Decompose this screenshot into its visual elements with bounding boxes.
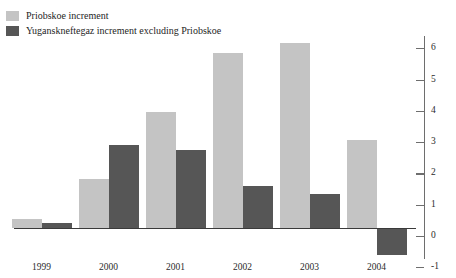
y-tick-label-3: 3: [431, 137, 436, 147]
y-tick-label-4: 4: [431, 106, 436, 116]
x-tick-label-2001: 2001: [166, 262, 185, 272]
bar-2002-series-2: [243, 186, 273, 228]
x-tick-label-2000: 2000: [99, 262, 118, 272]
bar-2001-series-2: [176, 150, 206, 228]
bar-group-2003: [280, 28, 340, 260]
y-tick-1: [416, 205, 424, 206]
y-tick--1: [416, 267, 424, 268]
x-tick-label-2004: 2004: [367, 262, 386, 272]
y-tick-label-5: 5: [431, 75, 436, 85]
bar-2001-series-1: [146, 112, 176, 228]
y-tick-label--1: -1: [431, 263, 439, 273]
y-axis-line: [424, 36, 425, 259]
y-tick-label-2: 2: [431, 169, 436, 179]
legend-item-priobskoe: Priobskoe increment: [6, 9, 306, 22]
bar-group-2004: [347, 28, 407, 260]
x-tick-label-1999: 1999: [32, 262, 51, 272]
x-tick-label-2003: 2003: [300, 262, 319, 272]
bar-group-2001: [146, 28, 206, 260]
x-axis: 199920002001200220032004: [14, 262, 416, 276]
y-tick-4: [416, 111, 424, 112]
y-tick-5: [416, 80, 424, 81]
bar-chart: Priobskoe increment Yuganskneftegaz incr…: [0, 0, 456, 278]
bar-2000-series-2: [109, 145, 139, 228]
plot-area: [14, 28, 416, 260]
bar-2004-series-2: [377, 228, 407, 255]
bar-1999-series-1: [12, 219, 42, 228]
zero-baseline: [14, 228, 416, 229]
bar-2004-series-1: [347, 140, 377, 228]
y-tick-2: [416, 173, 424, 174]
bar-2002-series-1: [213, 53, 243, 228]
bar-group-2002: [213, 28, 273, 260]
x-tick-label-2002: 2002: [233, 262, 252, 272]
legend-label-priobskoe: Priobskoe increment: [26, 10, 108, 21]
y-tick-3: [416, 142, 424, 143]
y-tick-0: [416, 236, 424, 237]
bar-group-1999: [12, 28, 72, 260]
bar-group-2000: [79, 28, 139, 260]
bar-2000-series-1: [79, 179, 109, 228]
y-axis: 6543210-1: [420, 28, 456, 260]
y-tick-label-1: 1: [431, 200, 436, 210]
legend-swatch-priobskoe: [6, 11, 19, 21]
y-tick-6: [416, 48, 424, 49]
y-tick-label-6: 6: [431, 43, 436, 53]
bar-2003-series-2: [310, 194, 340, 228]
bar-2003-series-1: [280, 43, 310, 228]
y-tick-label-0: 0: [431, 231, 436, 241]
